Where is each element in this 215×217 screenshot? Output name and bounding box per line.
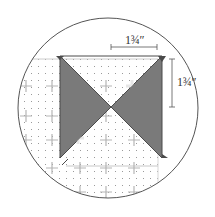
- hourglass-block-icon: [56, 56, 168, 165]
- height-dimension-label: 1¾″: [177, 75, 196, 90]
- width-dimension-label: 1¾″: [125, 33, 144, 48]
- diagram-svg: [0, 0, 215, 217]
- magnified-detail-diagram: 1¾″ 1¾″: [0, 0, 215, 217]
